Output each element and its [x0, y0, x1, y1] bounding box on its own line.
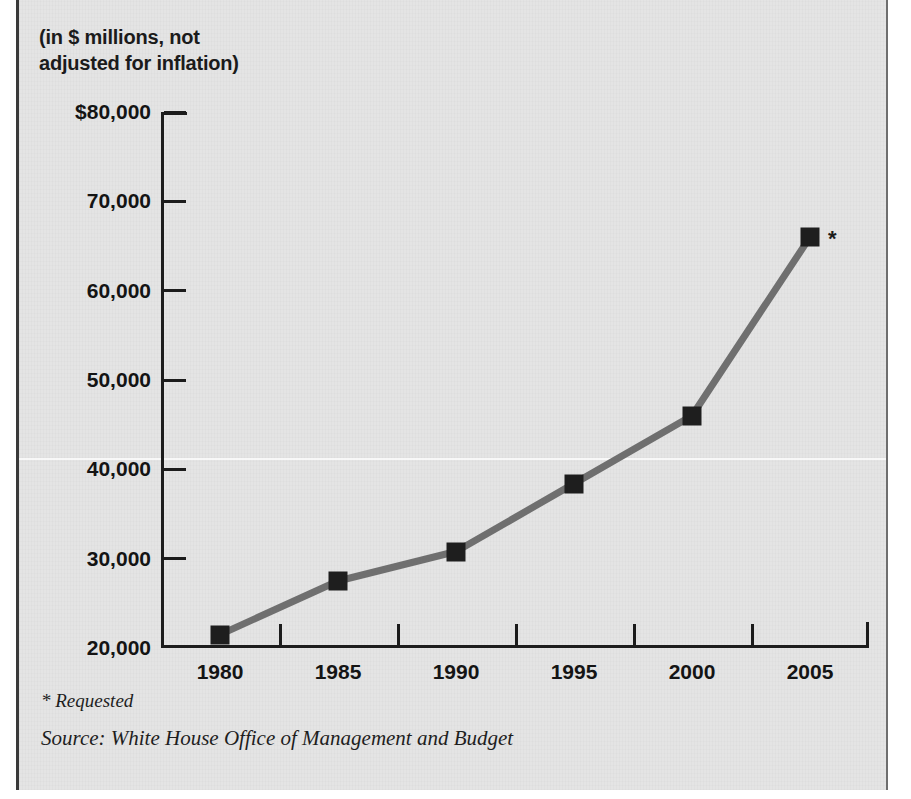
x-axis-tick-label: 1985 [315, 660, 362, 684]
x-axis-tick-label: 1995 [551, 660, 598, 684]
data-point-marker [565, 474, 584, 493]
x-axis-tick-label: 1990 [433, 660, 480, 684]
series-line [161, 112, 869, 648]
data-point-marker [211, 625, 230, 644]
data-point-marker [683, 406, 702, 425]
y-axis-tick-label: 50,000 [87, 368, 151, 392]
x-axis-tick-label: 2005 [787, 660, 834, 684]
footnote-source: Source: White House Office of Management… [41, 726, 513, 751]
y-axis-tick-label: 30,000 [87, 547, 151, 571]
y-axis-tick-label: 20,000 [87, 636, 151, 660]
chart-subtitle: (in $ millions, not adjusted for inflati… [39, 24, 239, 76]
x-axis-tick-label: 2000 [669, 660, 716, 684]
data-point-marker [447, 542, 466, 561]
x-axis-tick-label: 1980 [197, 660, 244, 684]
plot-area: 20,00030,00040,00050,00060,00070,000$80,… [161, 112, 869, 648]
requested-asterisk: * [828, 228, 837, 250]
chart-subtitle-line-1: (in $ millions, not [39, 24, 239, 50]
data-point-marker [801, 228, 820, 247]
y-axis-tick-label: $80,000 [75, 100, 151, 124]
data-point-marker [329, 572, 348, 591]
footnote-requested: * Requested [41, 690, 133, 712]
chart-subtitle-line-2: adjusted for inflation) [39, 50, 239, 76]
y-axis-tick-label: 70,000 [87, 189, 151, 213]
y-axis-tick-label: 40,000 [87, 457, 151, 481]
chart-figure: (in $ millions, not adjusted for inflati… [16, 0, 888, 790]
y-axis-tick-label: 60,000 [87, 279, 151, 303]
